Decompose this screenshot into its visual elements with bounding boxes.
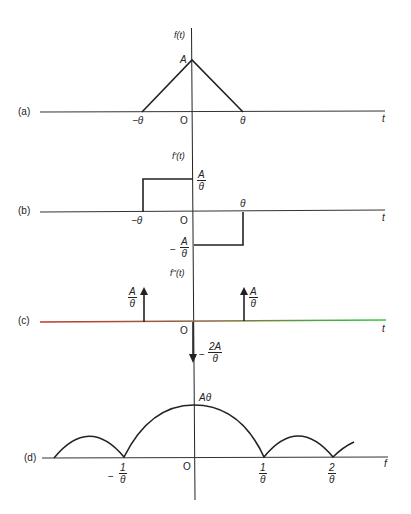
frac-num: 1 <box>259 463 267 474</box>
panel-b-tick-neg: −θ <box>131 216 142 226</box>
frac-num: 1 <box>119 463 127 474</box>
frac-den: θ <box>199 181 204 192</box>
derivative-negative <box>194 212 243 245</box>
panel-b-tick-pos: θ <box>240 199 245 209</box>
axis-c <box>40 320 386 322</box>
panel-c-center-sign: − <box>199 350 205 360</box>
spectrum-curve <box>54 405 354 458</box>
panel-c-center-impulse-label: 2A θ <box>208 342 222 364</box>
frac-den: θ <box>130 298 135 309</box>
panel-d-tick-pos2: 2 θ <box>328 463 336 485</box>
panel-b-ylabel: f'(t) <box>172 151 185 161</box>
panel-d-tag: (d) <box>24 453 36 463</box>
axis-b <box>40 210 385 212</box>
panel-d-tick-neg1-sign: − <box>108 472 114 482</box>
panel-d-tick-neg1: 1 θ <box>119 463 127 485</box>
vertical-axis <box>192 28 196 500</box>
impulse-right-arrowhead <box>240 287 248 295</box>
frac-den: θ <box>182 248 187 259</box>
frac-den: θ <box>260 474 265 485</box>
panel-c-origin: O <box>180 326 188 336</box>
panel-d-tick-pos1: 1 θ <box>259 463 267 485</box>
frac-den: θ <box>212 353 217 364</box>
frac-num: 2 <box>328 463 336 474</box>
panel-c-ylabel: f''(t) <box>170 268 184 278</box>
impulse-left-arrowhead <box>140 287 148 295</box>
panel-c-xlabel: t <box>382 324 385 334</box>
frac-den: θ <box>120 474 125 485</box>
panel-d-origin: O <box>183 462 191 472</box>
panel-b-tag: (b) <box>18 206 30 216</box>
panel-b-xlabel: t <box>382 213 385 223</box>
axis-a <box>40 111 385 112</box>
panel-a-tick-pos: θ <box>240 116 245 126</box>
frac-num: A <box>197 170 206 181</box>
panel-a-origin: O <box>180 116 188 126</box>
derivative-positive <box>143 179 193 212</box>
panel-c-right-impulse-label: A θ <box>249 287 258 309</box>
panel-a-peak-label: A <box>180 55 187 65</box>
panel-b-origin: O <box>180 216 188 226</box>
panel-b-neg-sign: − <box>170 245 176 255</box>
axis-d <box>42 457 388 458</box>
panel-d-peak-label: Aθ <box>199 393 211 403</box>
panel-d-xlabel: f <box>384 459 387 469</box>
frac-num: A <box>249 287 258 298</box>
diagram-canvas <box>0 0 411 514</box>
panel-a-xlabel: t <box>382 114 385 124</box>
frac-den: θ <box>251 298 256 309</box>
panel-b-neg-level: A θ <box>180 237 189 259</box>
panel-c-left-impulse-label: A θ <box>128 287 137 309</box>
frac-den: θ <box>329 474 334 485</box>
panel-a-ylabel: f(t) <box>174 30 185 40</box>
panel-c-tag: (c) <box>18 316 30 326</box>
frac-num: A <box>180 237 189 248</box>
impulse-center-arrowhead <box>189 354 197 363</box>
panel-a-tick-neg: −θ <box>132 116 143 126</box>
panel-b-pos-level: A θ <box>197 170 206 192</box>
panel-a-tag: (a) <box>18 107 30 117</box>
frac-num: 2A <box>208 342 222 353</box>
frac-num: A <box>128 287 137 298</box>
